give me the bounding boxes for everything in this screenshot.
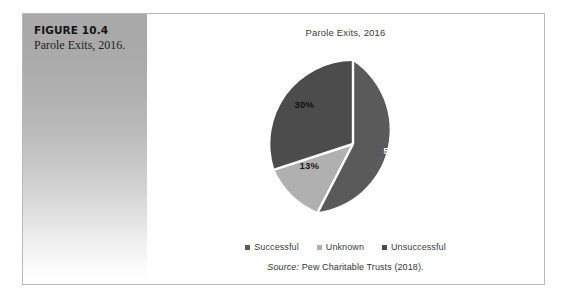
legend-item-successful[interactable]: Successful [245, 242, 299, 252]
figure-caption-block: FIGURE 10.4 Parole Exits, 2016. [34, 23, 144, 53]
legend-item-unknown[interactable]: Unknown [317, 242, 364, 252]
pie-svg [268, 59, 438, 229]
source-prefix: Source: [267, 262, 299, 272]
legend-swatch-icon [245, 245, 250, 250]
legend-swatch-icon [317, 245, 322, 250]
chart-title: Parole Exits, 2016 [147, 27, 544, 38]
source-text: Pew Charitable Trusts (2018). [299, 262, 424, 272]
legend-swatch-icon [382, 245, 387, 250]
pie-chart: 57% 13% 30% [268, 59, 438, 229]
legend-label-successful: Successful [254, 242, 299, 252]
figure-caption-text: Parole Exits, 2016. [34, 38, 144, 53]
source-line: Source: Pew Charitable Trusts (2018). [147, 262, 544, 272]
figure-frame: FIGURE 10.4 Parole Exits, 2016. Parole E… [22, 13, 545, 285]
figure-caption-panel: FIGURE 10.4 Parole Exits, 2016. [23, 14, 147, 284]
legend-label-unsuccessful: Unsuccessful [391, 242, 446, 252]
chart-legend: Successful Unknown Unsuccessful [147, 242, 544, 252]
figure-number-label: FIGURE 10.4 [34, 23, 144, 37]
legend-item-unsuccessful[interactable]: Unsuccessful [382, 242, 446, 252]
legend-label-unknown: Unknown [326, 242, 364, 252]
chart-area: Parole Exits, 2016 57% 13% 30% [147, 14, 544, 284]
